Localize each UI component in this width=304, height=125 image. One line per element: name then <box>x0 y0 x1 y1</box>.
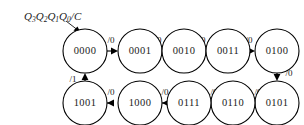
caption-term-3: Q <box>59 10 67 22</box>
state-node-0001[interactable]: 0001 <box>118 29 162 73</box>
state-diagram-canvas: Q3Q2Q1Q0/C /0 /0 /0 <box>0 0 304 125</box>
state-node-0011[interactable]: 0011 <box>206 29 250 73</box>
state-label-0000: 0000 <box>74 45 97 56</box>
state-node-0101[interactable]: 0101 <box>255 81 299 125</box>
state-node-0010[interactable]: 0010 <box>162 29 206 73</box>
edge-arrowhead <box>82 73 89 80</box>
caption-term-0: Q <box>24 10 32 22</box>
caption-label: Q3Q2Q1Q0/C <box>24 10 82 24</box>
state-label-0001: 0001 <box>129 45 152 56</box>
state-label-0111: 0111 <box>178 97 200 108</box>
edge-arrowhead <box>274 74 281 81</box>
state-label-0101: 0101 <box>266 97 289 108</box>
state-node-1000[interactable]: 1000 <box>118 81 162 125</box>
state-label-0110: 0110 <box>222 97 244 108</box>
state-label-1001: 1001 <box>74 97 97 108</box>
edge-label-1001-0000: /1 <box>69 74 76 84</box>
state-node-0110[interactable]: 0110 <box>211 81 255 125</box>
transition-1000-to-1001: /0 <box>107 87 115 106</box>
transition-0000-to-0001: /0 <box>107 35 118 54</box>
state-diagram: Q3Q2Q1Q0/C /0 /0 /0 <box>0 0 304 125</box>
state-node-0000[interactable]: 0000 <box>63 29 107 73</box>
edge-arrowhead <box>111 48 118 55</box>
state-label-1000: 1000 <box>129 97 152 108</box>
states-group: 0000 0001 0010 0011 0100 0101 <box>63 29 299 125</box>
caption-term-1: Q <box>36 10 44 22</box>
edge-label-1000-1001: /0 <box>107 87 115 97</box>
state-node-0100[interactable]: 0100 <box>255 29 299 73</box>
edge-label-0000-0001: /0 <box>107 35 115 45</box>
state-label-0011: 0011 <box>217 45 239 56</box>
state-node-1001[interactable]: 1001 <box>63 81 107 125</box>
caption-output: C <box>74 10 82 22</box>
state-node-0111[interactable]: 0111 <box>167 81 211 125</box>
state-label-0100: 0100 <box>266 45 289 56</box>
caption-term-2: Q <box>47 10 55 22</box>
state-label-0010: 0010 <box>173 45 196 56</box>
edge-arrowhead <box>107 100 114 107</box>
